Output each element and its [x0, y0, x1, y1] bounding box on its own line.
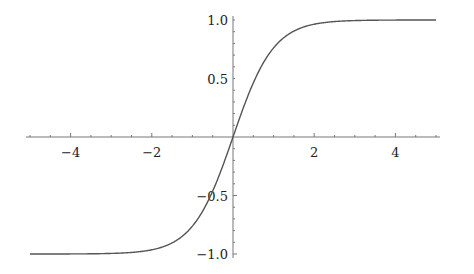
x-tick-label: 4 — [391, 145, 399, 160]
y-tick-label: 0.5 — [207, 72, 228, 87]
x-tick-label: −4 — [61, 145, 80, 160]
x-tick-label: 2 — [310, 145, 318, 160]
y-tick-label: −1.0 — [196, 247, 228, 262]
y-tick-label: 1.0 — [207, 13, 228, 28]
x-tick-label: −2 — [142, 145, 161, 160]
tanh-plot: −4−224−1.0−0.50.51.0 — [0, 0, 474, 274]
